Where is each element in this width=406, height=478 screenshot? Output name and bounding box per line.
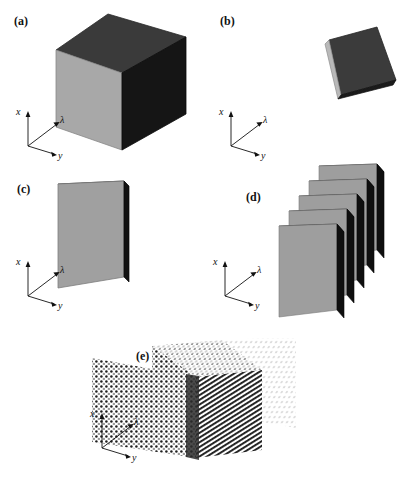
panel-c: (c) x λ y xyxy=(0,160,203,330)
panel-b-axis-lambda-label: λ xyxy=(263,114,267,125)
panel-e-axis-x-label: x xyxy=(90,408,94,419)
panel-d-axis-y-label: y xyxy=(255,300,259,311)
panel-e-side-face xyxy=(196,370,262,458)
panel-b: (b) x λ y xyxy=(203,0,406,160)
panel-a-axis-x-label: x xyxy=(16,106,20,117)
figure-canvas: (a) x λ y (b xyxy=(0,0,406,478)
panel-d-slab-1 xyxy=(279,224,344,318)
panel-d-axis-x-label: x xyxy=(213,256,217,267)
panel-a-axes: x λ y xyxy=(14,100,72,158)
panel-c-axes: x λ y xyxy=(14,250,72,308)
panel-a-axis-lambda-label: λ xyxy=(60,114,64,125)
panel-e-voxel-cube xyxy=(0,330,406,478)
panel-e-back-haze-right xyxy=(262,338,296,428)
panel-a: (a) x λ y xyxy=(0,0,203,160)
panel-e: (e) xyxy=(0,330,406,478)
panel-b-axis-x-label: x xyxy=(219,106,223,117)
panel-c-axis-lambda-label: λ xyxy=(60,264,64,275)
panel-e-axes: x λ y xyxy=(88,402,146,460)
panel-e-axis-y-label: y xyxy=(132,452,136,463)
panel-e-seam-column xyxy=(186,374,199,460)
panel-d-axes: x λ y xyxy=(211,250,269,308)
panel-d-axis-lambda-label: λ xyxy=(257,264,261,275)
panel-c-axis-y-label: y xyxy=(58,300,62,311)
panel-b-axes: x λ y xyxy=(217,100,275,158)
panel-e-axis-lambda-label: λ xyxy=(134,416,138,427)
panel-c-axis-x-label: x xyxy=(16,256,20,267)
panel-d: (d) xyxy=(203,160,406,330)
